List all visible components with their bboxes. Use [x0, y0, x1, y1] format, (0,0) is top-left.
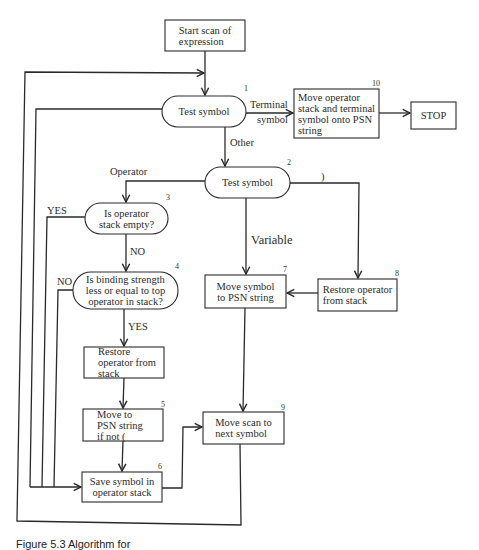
edge-label-terminal: Terminal [250, 99, 288, 110]
node-8-line-2: from stack [323, 295, 393, 306]
edge-label-close-paren: ) [321, 171, 325, 182]
node-number-8: 8 [395, 269, 399, 278]
node-number-6: 6 [158, 462, 162, 471]
node-8-line-1: Restore operator [323, 284, 393, 295]
edge-label-symbol: symbol [257, 114, 288, 125]
stop-label: STOP [421, 110, 447, 121]
test-symbol-2-label: Test symbol [222, 177, 273, 188]
figure-caption: Figure 5.3 Algorithm for [16, 538, 130, 550]
node-number-5: 5 [161, 400, 165, 409]
restore-operator-node: Restore operator from stack [84, 347, 164, 378]
node-3-line-1: Is operator [99, 208, 154, 219]
edge-label-no-3: NO [130, 246, 145, 257]
edge-label-yes-3: YES [47, 205, 67, 216]
node-5-line-3: if not ( [97, 431, 143, 442]
edge-label-yes-4: YES [128, 321, 148, 332]
node-number-7: 7 [283, 265, 287, 274]
node-3-line-2: stack empty? [99, 219, 154, 230]
restore-line-2: operator from [98, 357, 156, 368]
node-number-2: 2 [287, 158, 291, 167]
node-number-10: 10 [372, 79, 380, 88]
node-9-line-2: next symbol [215, 428, 272, 439]
move-symbol-node: Move symbol to PSN string [205, 275, 286, 308]
node-4-line-3: operator in stack? [86, 296, 165, 307]
node-7-line-2: to PSN string [216, 292, 274, 303]
node-5-line-1: Move to [97, 409, 143, 420]
box-10-line-3: symbol onto PSN [298, 114, 375, 125]
start-line-2: expression [179, 36, 232, 47]
node-6-line-1: Save symbol in [90, 476, 155, 487]
save-symbol-node: Save symbol in operator stack [82, 472, 162, 502]
edge-label-no-4: NO [57, 276, 72, 287]
node-7-line-1: Move symbol [216, 281, 274, 292]
box-10-node: Move operator stack and terminal symbol … [294, 89, 379, 138]
test-symbol-1-node: Test symbol [162, 96, 246, 127]
test-symbol-1-label: Test symbol [179, 106, 230, 117]
operator-stack-empty-node: Is operator stack empty? [85, 203, 168, 234]
restore-line-1: Restore [98, 346, 156, 357]
start-node: Start scan of expression [165, 20, 245, 51]
stop-node: STOP [411, 102, 456, 129]
test-symbol-2-node: Test symbol [205, 167, 290, 198]
edge-label-other: Other [230, 137, 254, 148]
box-10-line-2: stack and terminal [298, 103, 375, 114]
binding-strength-node: Is binding strength less or equal to top… [73, 272, 178, 309]
edge-label-variable: Variable [251, 233, 293, 248]
node-number-1: 1 [244, 84, 248, 93]
node-5-line-2: PSN string [97, 420, 143, 431]
move-to-psn-node: Move to PSN string if not ( [83, 409, 163, 441]
node-9-line-1: Move scan to [215, 417, 272, 428]
box-10-line-1: Move operator [298, 92, 375, 103]
node-6-line-2: operator stack [90, 487, 155, 498]
node-4-line-2: less or equal to top [86, 285, 165, 296]
node-number-9: 9 [281, 403, 285, 412]
node-4-line-1: Is binding strength [86, 274, 165, 285]
move-scan-node: Move scan to next symbol [203, 412, 284, 444]
edge-label-operator: Operator [110, 166, 147, 177]
box-10-line-4: string [298, 125, 375, 136]
node-number-4: 4 [175, 262, 179, 271]
node-number-3: 3 [166, 193, 170, 202]
restore-line-3: stack [98, 368, 156, 379]
start-line-1: Start scan of [179, 25, 232, 36]
restore-operator-8-node: Restore operator from stack [318, 279, 397, 311]
